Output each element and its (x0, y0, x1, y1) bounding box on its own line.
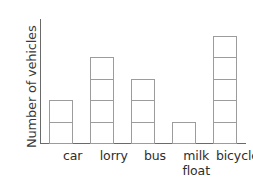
bar-bicycle (213, 36, 237, 143)
bar-segment (49, 122, 73, 144)
bar-chart: Number of vehicles carlorrybusmilkfloatb… (0, 0, 253, 192)
bar-segment (49, 100, 73, 122)
bar-segment (213, 36, 237, 58)
bar-segment (213, 100, 237, 122)
bar-segment (213, 79, 237, 101)
plot-area (40, 19, 246, 143)
bar-segment (131, 79, 155, 101)
bar-car (49, 100, 73, 143)
bar-segment (90, 79, 114, 101)
bar-milk-float (172, 122, 196, 143)
bar-segment (213, 122, 237, 144)
x-axis-labels: carlorrybusmilkfloatbicycle (40, 148, 246, 190)
bar-segment (213, 57, 237, 79)
bar-segment (172, 122, 196, 144)
bar-lorry (90, 57, 114, 143)
y-axis-title: Number of vehicles (22, 8, 42, 148)
bar-segment (90, 57, 114, 79)
bar-segment (131, 100, 155, 122)
bar-bus (131, 79, 155, 143)
bar-segment (131, 122, 155, 144)
bar-segment (90, 122, 114, 144)
x-label-line: bicycle (208, 148, 253, 163)
x-label-line: float (167, 163, 225, 178)
x-label-bicycle: bicycle (208, 148, 253, 163)
bar-segment (90, 100, 114, 122)
